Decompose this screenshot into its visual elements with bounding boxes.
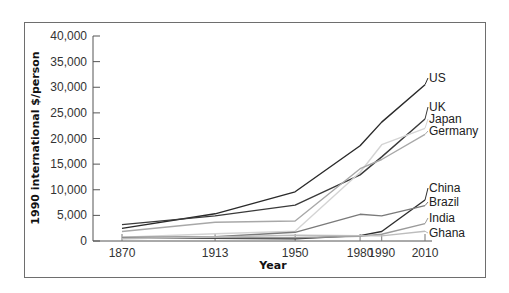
y-tick-label: 25,000 xyxy=(50,106,87,120)
y-axis: 05,00010,00015,00020,00025,00030,00035,0… xyxy=(50,29,100,248)
series-label-china: China xyxy=(429,181,461,195)
y-tick-label: 20,000 xyxy=(50,132,87,146)
y-tick-label: 15,000 xyxy=(50,157,87,171)
y-tick-label: 10,000 xyxy=(50,183,87,197)
series-label-india: India xyxy=(429,211,455,225)
series-label-brazil: Brazil xyxy=(429,195,459,209)
x-tick-label: 1913 xyxy=(202,246,229,260)
series-label-us: US xyxy=(429,71,446,85)
y-tick-label: 30,000 xyxy=(50,80,87,94)
y-axis-title: 1990 international $/person xyxy=(29,51,42,224)
x-tick-label: 1950 xyxy=(282,246,309,260)
series-label-germany: Germany xyxy=(429,124,478,138)
y-tick-label: 5,000 xyxy=(57,208,87,222)
chart-frame xyxy=(25,23,486,278)
y-tick-label: 40,000 xyxy=(50,29,87,43)
x-tick-label: 2010 xyxy=(412,246,439,260)
x-tick-label: 1990 xyxy=(368,246,395,260)
x-tick-label: 1870 xyxy=(109,246,136,260)
x-axis-title: Year xyxy=(258,259,287,272)
line-chart: 05,00010,00015,00020,00025,00030,00035,0… xyxy=(0,0,509,293)
y-tick-label: 0 xyxy=(80,234,87,248)
y-tick-label: 35,000 xyxy=(50,55,87,69)
series-label-ghana: Ghana xyxy=(429,226,465,240)
